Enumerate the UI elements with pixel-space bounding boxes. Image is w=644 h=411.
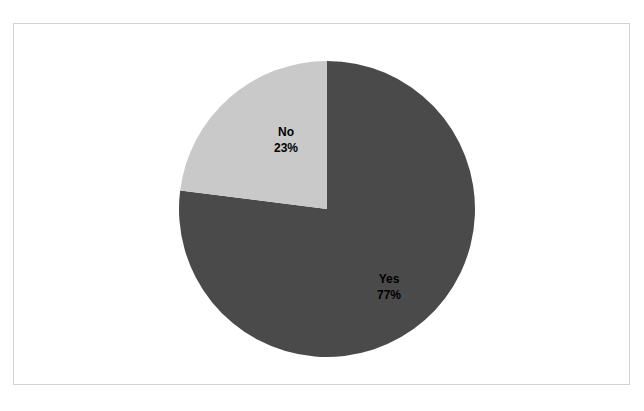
- clipped-header-text: [0, 0, 644, 4]
- pie-label-yes-value: 77%: [349, 287, 429, 303]
- screenshot-canvas: No 23% Yes 77%: [0, 0, 644, 411]
- pie-label-no-name: No: [246, 124, 326, 140]
- pie-label-no-value: 23%: [246, 140, 326, 156]
- figure-frame: No 23% Yes 77%: [13, 23, 630, 385]
- pie-label-yes: Yes 77%: [349, 271, 429, 303]
- pie-chart: No 23% Yes 77%: [14, 24, 629, 384]
- pie-label-yes-name: Yes: [349, 271, 429, 287]
- pie-chart-svg: [14, 24, 631, 384]
- pie-label-no: No 23%: [246, 124, 326, 156]
